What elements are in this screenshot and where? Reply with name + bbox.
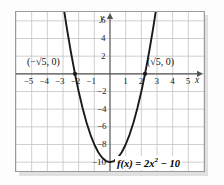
- x-tick-label: −4: [39, 77, 49, 86]
- figure-container: −5−4−3−2−112345642−2−4−6−8−10 y x (−√5, …: [0, 0, 224, 185]
- x-tick-label: −1: [86, 77, 96, 86]
- y-tick-label: −4: [97, 105, 107, 114]
- x-tick-label: −3: [55, 77, 65, 86]
- annotation-left-root: (−√5, 0): [27, 57, 60, 67]
- x-tick-label: 5: [186, 77, 191, 86]
- y-axis-label: y: [100, 14, 104, 24]
- y-tick-label: 4: [101, 34, 106, 43]
- y-tick-label: −8: [97, 140, 107, 149]
- x-tick-label: −5: [24, 77, 34, 86]
- x-tick-label: −2: [71, 77, 81, 86]
- function-equation-label: f(x) = 2x2 − 10: [115, 156, 182, 170]
- x-tick-label: 4: [170, 77, 175, 86]
- x-axis-label: x: [195, 76, 199, 86]
- y-tick-label: −10: [92, 158, 106, 167]
- x-tick-label: 2: [139, 77, 144, 86]
- y-tick-label: −6: [97, 122, 107, 131]
- annotation-right-root: (√5, 0): [147, 57, 174, 67]
- x-tick-label: 1: [123, 77, 128, 86]
- x-tick-label: 3: [155, 77, 160, 86]
- y-tick-label: −2: [97, 87, 107, 96]
- y-tick-label: 2: [101, 52, 106, 61]
- plot-area: −5−4−3−2−112345642−2−4−6−8−10 y x (−√5, …: [15, 11, 205, 172]
- parabola-curve: [16, 12, 204, 171]
